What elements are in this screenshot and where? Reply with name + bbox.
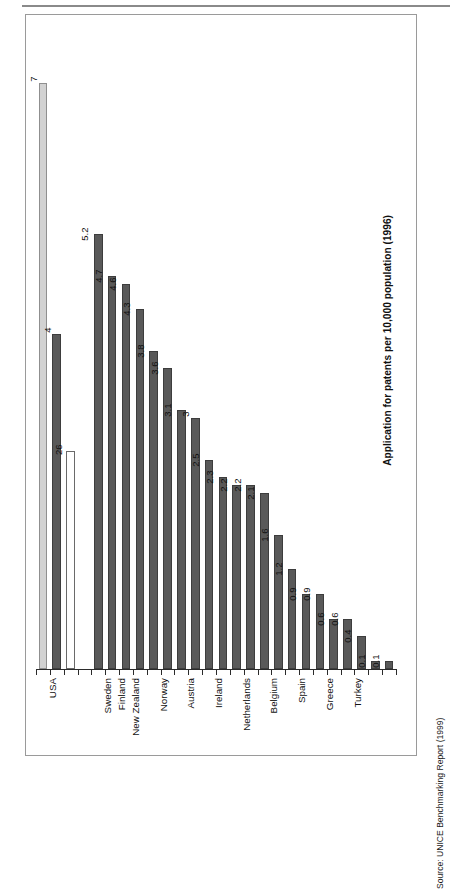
bar-value-label: 4.3 <box>126 283 137 299</box>
bar-slot: 3 <box>188 15 202 669</box>
bar[interactable] <box>149 351 158 669</box>
bar[interactable] <box>52 334 61 669</box>
bar-slot: 0.6 <box>327 15 341 669</box>
axis-tick <box>119 669 120 675</box>
bar-value-label: 0.1 <box>362 635 373 651</box>
axis-tick <box>382 669 383 675</box>
bar[interactable] <box>385 661 394 669</box>
bar-slot: 2.3 <box>216 15 230 669</box>
bar-slot: 0.1 <box>368 15 382 669</box>
category-label: Spain <box>296 678 307 703</box>
bar-slot: 4.7 <box>105 15 119 669</box>
bar-slot: 7 <box>36 15 50 669</box>
axis-tick <box>161 669 162 675</box>
bar[interactable] <box>177 410 186 669</box>
axis-tick <box>396 669 397 675</box>
bar-slot: 3.1 <box>174 15 188 669</box>
bar[interactable] <box>246 485 255 669</box>
bar[interactable] <box>122 284 131 669</box>
bar-slot: 2.5 <box>202 15 216 669</box>
bar-slot: 4.6 <box>119 15 133 669</box>
axis-tick <box>202 669 203 675</box>
category-label: USA <box>47 678 58 698</box>
axis-tick <box>327 669 328 675</box>
bar-value-label: 4.7 <box>99 250 110 266</box>
category-label: Belgium <box>268 678 279 713</box>
bar-value-label: 5.2 <box>85 208 96 224</box>
bar-slot: 0.9 <box>313 15 327 669</box>
axis-tick <box>313 669 314 675</box>
category-label: Austria <box>185 678 196 709</box>
bar[interactable] <box>39 83 48 669</box>
axis-tick <box>78 669 79 675</box>
bar-value-label: 3 <box>186 400 197 408</box>
axis-tick <box>147 669 148 675</box>
source-note-container: Source: UNICE Benchmarking Report (1999) <box>431 489 449 889</box>
value-axis-title-container: Application for patents per 10,000 popul… <box>382 215 384 217</box>
axis-tick <box>271 669 272 675</box>
bar-slot: 2.2 <box>244 15 258 669</box>
bar[interactable] <box>232 485 241 669</box>
category-label: Greece <box>324 678 335 710</box>
page-top-rule <box>22 5 450 7</box>
bar-value-label: 4 <box>47 316 58 324</box>
source-note: Source: UNICE Benchmarking Report (1999) <box>435 718 445 889</box>
category-label: New Zealand <box>130 678 141 736</box>
axis-tick <box>258 669 259 675</box>
axis-tick <box>299 669 300 675</box>
bar-slot: 0.6 <box>341 15 355 669</box>
bar-slot: 5.2 <box>91 15 105 669</box>
bar-value-label: 0.1 <box>375 635 386 651</box>
bar-value-label: 1.2 <box>279 543 290 559</box>
axis-tick <box>174 669 175 675</box>
category-label: Finland <box>116 678 127 710</box>
category-label: Sweden <box>102 678 113 713</box>
axis-tick <box>105 669 106 675</box>
bar[interactable] <box>94 234 103 669</box>
axis-tick <box>188 669 189 675</box>
axis-tick <box>50 669 51 675</box>
bar[interactable] <box>136 309 145 669</box>
axis-tick <box>368 669 369 675</box>
axis-tick <box>354 669 355 675</box>
bar-slot: 26 <box>64 15 78 669</box>
bar-value-label: 4.6 <box>112 258 123 274</box>
bar-value-label: 2.2 <box>223 459 234 475</box>
axis-tick <box>91 669 92 675</box>
axis-tick <box>244 669 245 675</box>
axis-tick <box>341 669 342 675</box>
bar-value-label: 0.9 <box>292 568 303 584</box>
bar-value-label: 0.9 <box>306 568 317 584</box>
bar-value-label: 3.8 <box>140 325 151 341</box>
bar[interactable] <box>108 276 117 669</box>
bar[interactable] <box>302 594 311 669</box>
bar-value-label: 3.1 <box>168 384 179 400</box>
axis-tick <box>64 669 65 675</box>
bar-slot: 3.6 <box>161 15 175 669</box>
bar-slot: 4 <box>50 15 64 669</box>
bar-value-label: 0.6 <box>334 593 345 609</box>
bar-value-label: 0.4 <box>348 610 359 626</box>
value-axis-title: Application for patents per 10,000 popul… <box>382 215 393 466</box>
category-label: Ireland <box>213 678 224 708</box>
axis-tick <box>36 669 37 675</box>
bar-value-label: 7 <box>33 65 44 73</box>
bar[interactable] <box>329 619 338 669</box>
bar-value-label: 2.3 <box>209 451 220 467</box>
bar[interactable] <box>205 460 214 669</box>
bar[interactable] <box>219 477 228 669</box>
axis-tick <box>230 669 231 675</box>
bar-value-label: 0.6 <box>320 593 331 609</box>
bar-slot <box>78 15 92 669</box>
bar-value-label: 2.2 <box>237 459 248 475</box>
axis-tick <box>285 669 286 675</box>
bar-slot: 0.4 <box>354 15 368 669</box>
bar-slot: 2.2 <box>230 15 244 669</box>
category-label: Netherlands <box>241 678 252 731</box>
bar-slots: 74265.24.74.64.33.83.63.132.52.32.22.22.… <box>36 15 396 669</box>
bar[interactable] <box>66 451 75 669</box>
bar-slot: 2.1 <box>258 15 272 669</box>
axis-tick <box>133 669 134 675</box>
figure-frame: 74265.24.74.64.33.83.63.132.52.32.22.22.… <box>25 14 417 756</box>
axis-tick <box>216 669 217 675</box>
